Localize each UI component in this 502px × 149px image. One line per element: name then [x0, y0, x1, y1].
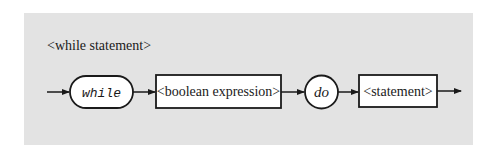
node-statement-label: <statement>: [363, 84, 433, 99]
node-do: do: [305, 76, 338, 109]
node-boolean-expression: <boolean expression>: [156, 75, 281, 108]
syntax-diagram: while <boolean expression> do <statement…: [0, 0, 502, 149]
node-statement: <statement>: [359, 75, 437, 107]
node-while: while: [70, 76, 133, 108]
node-boolean-expression-label: <boolean expression>: [157, 84, 281, 99]
node-do-label: do: [314, 84, 330, 100]
node-while-label: while: [82, 86, 121, 101]
